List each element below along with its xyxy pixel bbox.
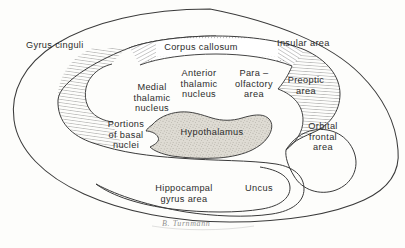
label-portions-of-basal-nuclei: Portions of basal nuclei <box>99 119 153 151</box>
label-anterior-thalamic-nucleus: Anterior thalamic nucleus <box>170 68 228 100</box>
label-corpus-callosum: Corpus callosum <box>155 42 247 53</box>
limbic-system-diagram: Gyrus cinguli Corpus callosum Insular ar… <box>0 0 405 248</box>
label-preoptic-area: Preoptic area <box>281 75 331 96</box>
label-orbital-frontal-area: Orbital frontal area <box>300 121 346 153</box>
label-para-olfactory-area: Para – olfactory area <box>227 68 281 100</box>
label-insular-area: Insular area <box>277 38 330 49</box>
label-hippocampal-gyrus-area: Hippocampal gyrus area <box>147 183 221 204</box>
artist-signature: B. Turnmann <box>162 219 210 228</box>
label-hypothalamus: Hypothalamus <box>169 127 255 138</box>
label-gyrus-cinguli: Gyrus cinguli <box>26 40 84 51</box>
label-uncus: Uncus <box>240 183 278 194</box>
